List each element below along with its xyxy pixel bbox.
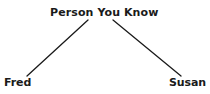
node-susan: Susan	[169, 77, 206, 88]
relationship-diagram: Person You Know Fred Susan	[0, 0, 210, 94]
node-fred: Fred	[4, 77, 31, 88]
edge-root-to-susan	[113, 20, 181, 76]
node-person-you-know: Person You Know	[50, 7, 158, 18]
edge-root-to-fred	[27, 20, 88, 76]
